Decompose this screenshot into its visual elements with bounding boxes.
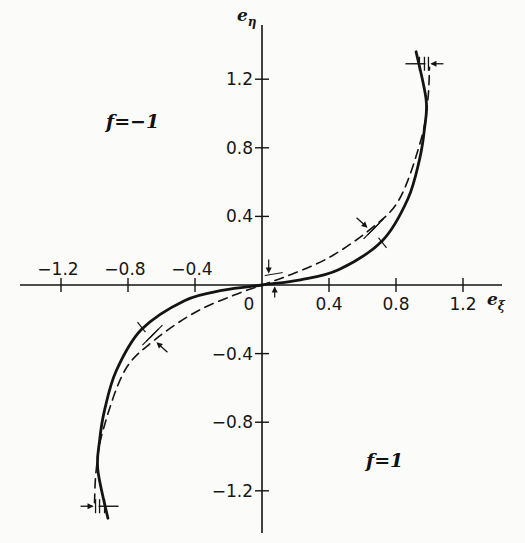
crossing-arrow-marker bbox=[137, 322, 167, 352]
x-tick-label: 0.8 bbox=[382, 294, 409, 314]
origin-label: 0 bbox=[244, 294, 255, 314]
axes bbox=[20, 25, 502, 533]
y-tick-label: 0.4 bbox=[226, 206, 253, 226]
y-tick-label: 1.2 bbox=[226, 69, 253, 89]
x-tick-label: 1.2 bbox=[449, 294, 476, 314]
chart: −1.2−0.8−0.40.40.81.201.20.80.4−0.4−0.8−… bbox=[0, 0, 525, 543]
x-tick-label: −0.8 bbox=[104, 259, 145, 279]
crossing-arrow-marker bbox=[357, 218, 387, 248]
y-tick-label: −0.4 bbox=[212, 344, 253, 364]
x-tick-label: −1.2 bbox=[37, 259, 78, 279]
y-tick-label: 0.8 bbox=[226, 138, 253, 158]
y-axis-title: eη bbox=[237, 5, 257, 29]
y-tick-label: −0.8 bbox=[212, 412, 253, 432]
x-axis-title: eξ bbox=[487, 289, 506, 313]
y-tick-label: −1.2 bbox=[212, 481, 253, 501]
region-label-f-minus-1: f=−1 bbox=[104, 110, 159, 132]
region-label-f-1: f=1 bbox=[364, 449, 403, 471]
crossing-arrow-marker bbox=[81, 499, 119, 513]
x-tick-label: 0.4 bbox=[315, 294, 342, 314]
crossing-arrow-marker bbox=[405, 57, 443, 71]
x-tick-label: −0.4 bbox=[171, 259, 212, 279]
